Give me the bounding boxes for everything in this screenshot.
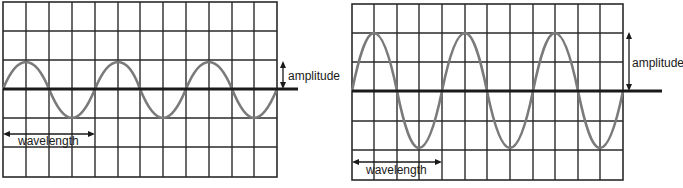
amplitude-label-left: amplitude bbox=[288, 69, 340, 83]
amplitude-arrow-left bbox=[280, 61, 286, 89]
panel-large-amplitude: amplitude wavelength bbox=[352, 4, 683, 180]
wavelength-label-left: wavelength bbox=[17, 134, 79, 148]
amplitude-label-right: amplitude bbox=[632, 56, 683, 70]
wave-comparison-diagram: amplitude wavelength amplitude bbox=[0, 0, 683, 188]
panel-small-amplitude: amplitude wavelength bbox=[3, 2, 340, 177]
wavelength-label-right: wavelength bbox=[365, 163, 427, 177]
